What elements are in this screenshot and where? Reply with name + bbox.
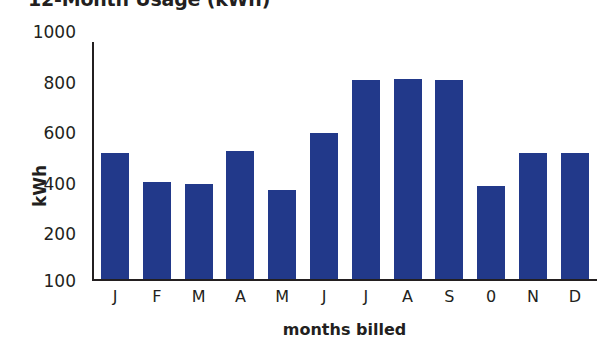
y-tick-label: 1000	[16, 22, 76, 42]
bar-0	[101, 153, 129, 279]
x-tick-label: M	[267, 287, 297, 306]
x-tick-label: J	[309, 287, 339, 306]
bar-8	[435, 80, 463, 279]
x-tick-label: D	[560, 287, 590, 306]
x-tick-label: F	[142, 287, 172, 306]
x-axis-label: months billed	[0, 320, 599, 339]
y-tick-label: 400	[16, 174, 76, 194]
y-tick-label: 200	[16, 224, 76, 244]
x-tick-label: A	[225, 287, 255, 306]
chart-title: 12-Month Usage (kWh)	[28, 0, 270, 10]
x-tick-label: 0	[476, 287, 506, 306]
x-tick-label: A	[393, 287, 423, 306]
y-tick-label: 800	[16, 73, 76, 93]
bar-9	[477, 186, 505, 279]
bar-10	[519, 153, 547, 279]
x-tick-label: J	[351, 287, 381, 306]
y-tick-label: 100	[16, 271, 76, 291]
bar-2	[185, 184, 213, 280]
y-tick-label: 600	[16, 123, 76, 143]
x-tick-label: J	[100, 287, 130, 306]
y-axis-line	[92, 42, 94, 281]
bar-4	[268, 190, 296, 279]
bar-7	[394, 79, 422, 279]
bar-6	[352, 80, 380, 279]
bar-1	[143, 182, 171, 279]
bar-5	[310, 133, 338, 279]
bar-3	[226, 151, 254, 279]
x-axis-line	[92, 279, 597, 281]
x-tick-label: M	[184, 287, 214, 306]
x-tick-label: N	[518, 287, 548, 306]
bar-11	[561, 153, 589, 279]
x-tick-label: S	[434, 287, 464, 306]
